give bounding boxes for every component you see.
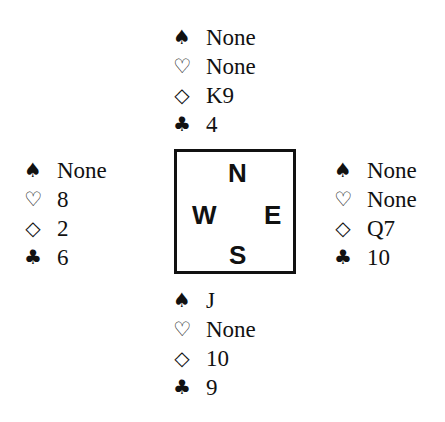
diamond-icon: ◇ <box>331 214 355 243</box>
spade-icon: ♠ <box>21 156 45 185</box>
heart-icon: ♡ <box>170 52 194 81</box>
east-hand: ♠ None ♡ None ◇ Q7 ♣ 10 <box>331 156 441 272</box>
spade-icon: ♠ <box>170 23 194 52</box>
north-hearts-row: ♡ None <box>170 52 280 81</box>
club-icon: ♣ <box>331 243 355 272</box>
south-hand: ♠ J ♡ None ◇ 10 ♣ 9 <box>170 286 280 402</box>
south-spades-cards: J <box>206 286 215 315</box>
compass-east-label: E <box>264 202 281 228</box>
north-hearts-cards: None <box>206 52 256 81</box>
east-diamonds-row: ◇ Q7 <box>331 214 441 243</box>
spade-icon: ♠ <box>331 156 355 185</box>
east-hearts-row: ♡ None <box>331 185 441 214</box>
west-diamonds-cards: 2 <box>57 214 69 243</box>
north-hand: ♠ None ♡ None ◇ K9 ♣ 4 <box>170 23 280 139</box>
east-hearts-cards: None <box>367 185 417 214</box>
spade-icon: ♠ <box>170 286 194 315</box>
west-spades-cards: None <box>57 156 107 185</box>
club-icon: ♣ <box>170 110 194 139</box>
south-clubs-cards: 9 <box>206 373 218 402</box>
north-clubs-cards: 4 <box>206 110 218 139</box>
diamond-icon: ◇ <box>170 81 194 110</box>
club-icon: ♣ <box>21 243 45 272</box>
east-spades-row: ♠ None <box>331 156 441 185</box>
compass-south-label: S <box>229 242 246 268</box>
diamond-icon: ◇ <box>170 344 194 373</box>
south-hearts-cards: None <box>206 315 256 344</box>
south-hearts-row: ♡ None <box>170 315 280 344</box>
east-clubs-cards: 10 <box>367 243 390 272</box>
east-diamonds-cards: Q7 <box>367 214 395 243</box>
west-spades-row: ♠ None <box>21 156 131 185</box>
north-clubs-row: ♣ 4 <box>170 110 280 139</box>
compass-box: N W E S <box>174 149 296 274</box>
west-hand: ♠ None ♡ 8 ◇ 2 ♣ 6 <box>21 156 131 272</box>
west-clubs-cards: 6 <box>57 243 69 272</box>
diamond-icon: ◇ <box>21 214 45 243</box>
heart-icon: ♡ <box>170 315 194 344</box>
east-spades-cards: None <box>367 156 417 185</box>
club-icon: ♣ <box>170 373 194 402</box>
north-spades-row: ♠ None <box>170 23 280 52</box>
heart-icon: ♡ <box>331 185 355 214</box>
heart-icon: ♡ <box>21 185 45 214</box>
south-diamonds-cards: 10 <box>206 344 229 373</box>
south-spades-row: ♠ J <box>170 286 280 315</box>
west-clubs-row: ♣ 6 <box>21 243 131 272</box>
compass-north-label: N <box>228 160 247 186</box>
west-hearts-cards: 8 <box>57 185 69 214</box>
south-diamonds-row: ◇ 10 <box>170 344 280 373</box>
north-diamonds-row: ◇ K9 <box>170 81 280 110</box>
east-clubs-row: ♣ 10 <box>331 243 441 272</box>
south-clubs-row: ♣ 9 <box>170 373 280 402</box>
west-diamonds-row: ◇ 2 <box>21 214 131 243</box>
north-diamonds-cards: K9 <box>206 81 234 110</box>
compass-west-label: W <box>192 202 217 228</box>
north-spades-cards: None <box>206 23 256 52</box>
west-hearts-row: ♡ 8 <box>21 185 131 214</box>
